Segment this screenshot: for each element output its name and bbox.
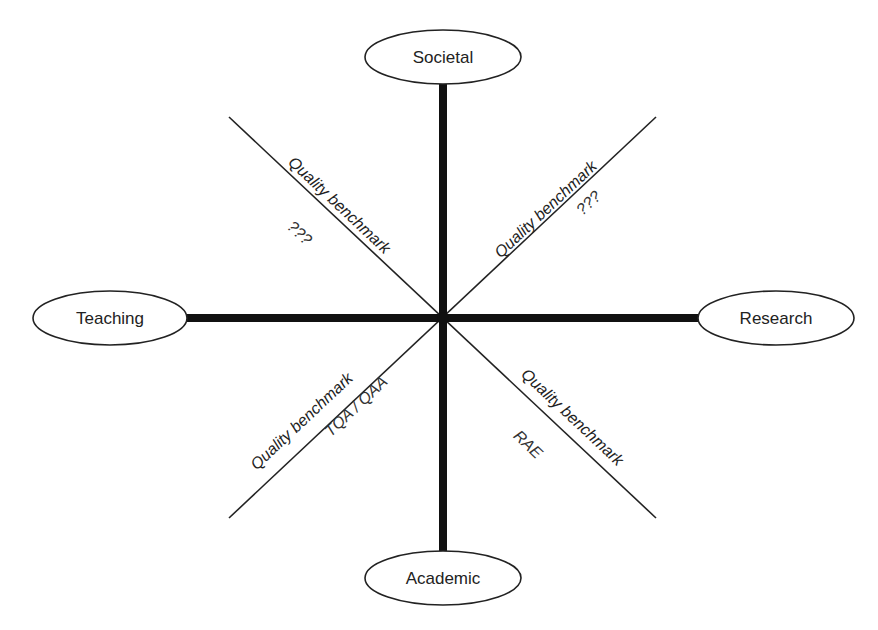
node-teaching-label: Teaching [76, 309, 144, 328]
diagram-canvas: Societal Teaching Research Academic Qual… [0, 0, 878, 630]
node-teaching: Teaching [33, 291, 187, 345]
node-research: Research [698, 291, 854, 345]
node-societal-label: Societal [413, 48, 473, 67]
diagram-svg: Societal Teaching Research Academic Qual… [0, 0, 878, 630]
node-academic-label: Academic [406, 569, 481, 588]
node-societal: Societal [365, 30, 521, 84]
benchmark-top-right-value: ??? [573, 187, 604, 218]
center-hub [437, 312, 449, 324]
node-academic: Academic [365, 551, 521, 605]
benchmark-bottom-right-value: RAE [510, 427, 546, 462]
benchmark-top-left-value: ??? [284, 218, 315, 249]
node-research-label: Research [740, 309, 813, 328]
